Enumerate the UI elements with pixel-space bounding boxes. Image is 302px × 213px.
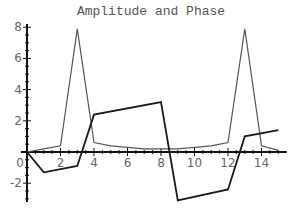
x-tick-label: 6 — [124, 156, 132, 170]
y-tick-label: 8 — [14, 20, 22, 34]
y-tick-label: -2 — [10, 176, 22, 190]
plot-area: 02468101214-22468 — [0, 0, 302, 213]
x-tick-label: 8 — [157, 156, 165, 170]
x-tick-label: 0 — [16, 156, 24, 170]
series-line-amplitude — [27, 29, 278, 152]
x-tick-label: 12 — [220, 156, 235, 170]
y-tick-label: 2 — [14, 114, 22, 128]
x-tick-label: 10 — [187, 156, 202, 170]
y-tick-label: 4 — [14, 83, 22, 97]
x-tick-label: 14 — [254, 156, 269, 170]
y-tick-label: 6 — [14, 51, 22, 65]
x-tick-label: 4 — [90, 156, 98, 170]
